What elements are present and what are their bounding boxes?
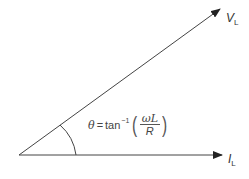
tan-function: tan [105, 119, 120, 131]
current-subscript: L [231, 159, 235, 168]
phase-angle-formula: θ = tan −1 ( ωL R ) [88, 113, 168, 137]
fraction-denominator: R [146, 125, 154, 137]
equals-sign: = [97, 119, 103, 131]
fraction: ωL R [140, 113, 160, 137]
close-paren: ) [162, 114, 167, 136]
open-paren: ( [132, 114, 137, 136]
inverse-exponent: −1 [121, 117, 129, 124]
fraction-numerator: ωL [140, 113, 160, 125]
phasor-diagram [0, 0, 249, 179]
angle-arc [60, 125, 76, 155]
theta-symbol: θ [88, 119, 95, 132]
voltage-phasor-label: VL [226, 11, 238, 25]
current-phasor-label: IL [228, 152, 236, 166]
voltage-symbol: V [226, 11, 234, 25]
voltage-subscript: L [234, 18, 238, 27]
